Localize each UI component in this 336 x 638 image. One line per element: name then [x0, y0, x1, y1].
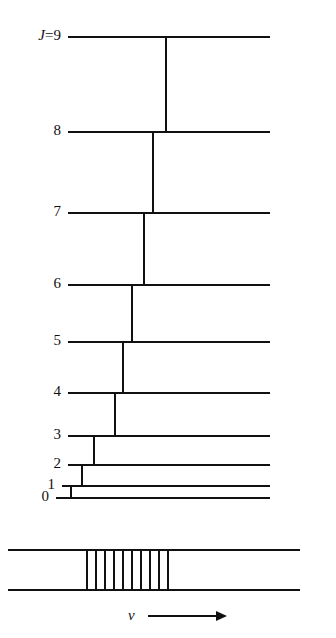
energy-level-label-2: 2 — [54, 456, 62, 471]
energy-level-line-3 — [68, 435, 270, 437]
energy-level-line-6 — [68, 284, 270, 286]
transition-line-4-to-3 — [114, 392, 116, 437]
energy-level-line-9 — [68, 36, 270, 38]
spectrum-line-9 — [158, 549, 160, 591]
transition-line-6-to-5 — [131, 284, 133, 343]
spectrum-top-rail — [8, 549, 300, 551]
spectrum-line-2 — [95, 549, 97, 591]
spectrum-line-4 — [113, 549, 115, 591]
quantum-number-value: 9 — [54, 27, 62, 43]
transition-line-8-to-7 — [152, 131, 154, 214]
energy-level-line-2 — [68, 464, 270, 466]
energy-level-label-6: 6 — [54, 276, 62, 291]
equals-sign: = — [45, 27, 53, 43]
energy-level-line-8 — [68, 131, 270, 133]
energy-level-label-3: 3 — [54, 427, 62, 442]
energy-level-figure: J=9876543210 ν — [0, 0, 336, 638]
spectrum-line-5 — [122, 549, 124, 591]
spectrum-line-10 — [167, 549, 169, 591]
frequency-axis-arrow-head-icon — [216, 611, 227, 621]
transition-line-5-to-4 — [122, 341, 124, 394]
transition-line-1-to-0 — [70, 485, 72, 499]
energy-level-label-9: J=9 — [38, 28, 61, 43]
spectrum-line-7 — [140, 549, 142, 591]
spectrum-bottom-rail — [8, 589, 300, 591]
energy-level-line-0 — [56, 497, 270, 499]
energy-level-line-1 — [62, 485, 270, 487]
energy-level-line-7 — [68, 212, 270, 214]
energy-level-line-4 — [68, 392, 270, 394]
spectrum-line-6 — [131, 549, 133, 591]
energy-level-label-4: 4 — [54, 384, 62, 399]
energy-level-label-0: 0 — [42, 489, 50, 504]
transition-line-2-to-1 — [81, 464, 83, 487]
energy-level-label-8: 8 — [54, 123, 62, 138]
energy-level-line-5 — [68, 341, 270, 343]
transition-line-7-to-6 — [143, 212, 145, 286]
spectrum-line-3 — [104, 549, 106, 591]
energy-level-label-5: 5 — [54, 333, 62, 348]
spectrum-line-1 — [86, 549, 88, 591]
frequency-axis-symbol: ν — [128, 608, 135, 623]
energy-level-label-7: 7 — [54, 204, 62, 219]
frequency-axis-arrow-shaft — [148, 615, 216, 617]
transition-line-9-to-8 — [165, 36, 167, 133]
transition-line-3-to-2 — [93, 435, 95, 466]
spectrum-line-8 — [149, 549, 151, 591]
